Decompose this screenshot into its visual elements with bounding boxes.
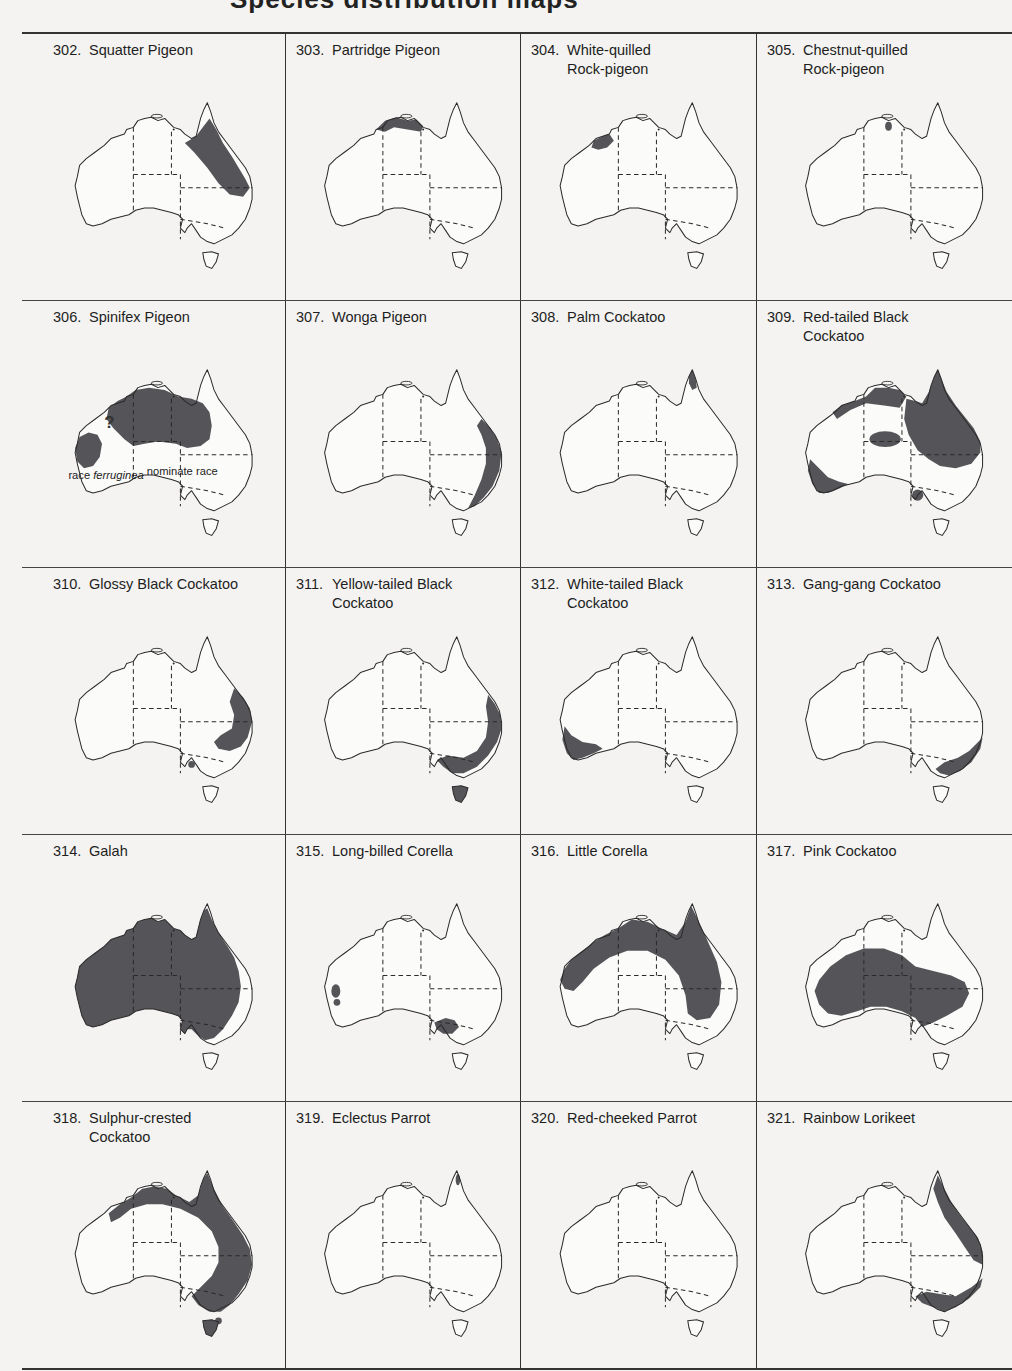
species-map-cell: 312.White-tailed Black Cockatoo — [521, 568, 757, 834]
uncertain-range-marker: ? — [104, 413, 114, 432]
species-label: 308.Palm Cockatoo — [531, 308, 665, 327]
species-label: 306.Spinifex Pigeon — [53, 308, 190, 327]
australia-map: ?race ferrugineanominate race — [22, 301, 286, 567]
species-name: Galah — [89, 842, 128, 861]
species-label: 312.White-tailed Black Cockatoo — [531, 575, 683, 613]
map-row: 318.Sulphur-crested Cockatoo319.Eclectus… — [22, 1102, 1012, 1368]
species-name: Pink Cockatoo — [803, 842, 897, 861]
range-area — [885, 122, 892, 131]
species-number: 316. — [531, 842, 567, 861]
species-label: 307.Wonga Pigeon — [296, 308, 427, 327]
race-ferruginea-label: race ferruginea — [68, 469, 143, 481]
australia-map — [286, 34, 521, 300]
species-map-cell: 309.Red-tailed Black Cockatoo — [757, 301, 1012, 567]
species-map-cell: 311.Yellow-tailed Black Cockatoo — [286, 568, 521, 834]
species-label: 310.Glossy Black Cockatoo — [53, 575, 238, 594]
species-map-cell: 303.Partridge Pigeon — [286, 34, 521, 300]
species-label: 314.Galah — [53, 842, 128, 861]
species-map-cell: 315.Long-billed Corella — [286, 835, 521, 1101]
species-name: Wonga Pigeon — [332, 308, 427, 327]
species-name: Sulphur-crested Cockatoo — [89, 1109, 191, 1147]
species-number: 321. — [767, 1109, 803, 1128]
species-map-cell: 316.Little Corella — [521, 835, 757, 1101]
map-row: 310.Glossy Black Cockatoo311.Yellow-tail… — [22, 568, 1012, 835]
species-label: 318.Sulphur-crested Cockatoo — [53, 1109, 191, 1147]
map-row: 314.Galah315.Long-billed Corella316.Litt… — [22, 835, 1012, 1102]
species-map-cell: 304.White-quilled Rock-pigeon — [521, 34, 757, 300]
species-map-cell: 308.Palm Cockatoo — [521, 301, 757, 567]
species-number: 310. — [53, 575, 89, 594]
species-map-cell: 305.Chestnut-quilled Rock-pigeon — [757, 34, 1012, 300]
species-map-cell: 320.Red-cheeked Parrot — [521, 1102, 757, 1368]
australia-map — [757, 568, 1012, 834]
species-map-cell: 318.Sulphur-crested Cockatoo — [22, 1102, 286, 1368]
species-label: 313.Gang-gang Cockatoo — [767, 575, 941, 594]
species-number: 311. — [296, 575, 332, 613]
species-number: 303. — [296, 41, 332, 60]
australia-map — [22, 835, 286, 1101]
species-label: 319.Eclectus Parrot — [296, 1109, 430, 1128]
nominate-race-label: nominate race — [147, 465, 218, 477]
range-area — [334, 999, 341, 1006]
australia-map — [757, 835, 1012, 1101]
distribution-map-grid: 302.Squatter Pigeon303.Partridge Pigeon3… — [22, 32, 1012, 1370]
species-label: 311.Yellow-tailed Black Cockatoo — [296, 575, 452, 613]
australia-map — [521, 1102, 757, 1368]
species-label: 321.Rainbow Lorikeet — [767, 1109, 915, 1128]
species-number: 304. — [531, 41, 567, 79]
species-number: 318. — [53, 1109, 89, 1147]
species-number: 315. — [296, 842, 332, 861]
species-name: Red-cheeked Parrot — [567, 1109, 697, 1128]
species-map-cell: ?race ferrugineanominate race306.Spinife… — [22, 301, 286, 567]
species-label: 303.Partridge Pigeon — [296, 41, 440, 60]
species-label: 320.Red-cheeked Parrot — [531, 1109, 697, 1128]
species-number: 306. — [53, 308, 89, 327]
species-number: 302. — [53, 41, 89, 60]
australia-map — [521, 835, 757, 1101]
species-number: 317. — [767, 842, 803, 861]
page-title-fragment: Species distribution maps — [0, 0, 979, 14]
species-label: 305.Chestnut-quilled Rock-pigeon — [767, 41, 908, 79]
species-name: Spinifex Pigeon — [89, 308, 190, 327]
species-name: White-quilled Rock-pigeon — [567, 41, 651, 79]
australia-map — [22, 568, 286, 834]
map-row: 302.Squatter Pigeon303.Partridge Pigeon3… — [22, 34, 1012, 301]
species-number: 313. — [767, 575, 803, 594]
australia-map — [521, 301, 757, 567]
species-label: 317.Pink Cockatoo — [767, 842, 897, 861]
species-number: 312. — [531, 575, 567, 613]
species-name: Squatter Pigeon — [89, 41, 193, 60]
australia-map — [22, 34, 286, 300]
species-label: 304.White-quilled Rock-pigeon — [531, 41, 651, 79]
species-label: 309.Red-tailed Black Cockatoo — [767, 308, 909, 346]
species-number: 308. — [531, 308, 567, 327]
species-name: White-tailed Black Cockatoo — [567, 575, 683, 613]
species-number: 319. — [296, 1109, 332, 1128]
species-name: Rainbow Lorikeet — [803, 1109, 915, 1128]
australia-map — [286, 835, 521, 1101]
range-area — [456, 1174, 460, 1185]
range-area — [331, 984, 340, 997]
species-number: 305. — [767, 41, 803, 79]
species-map-cell: 310.Glossy Black Cockatoo — [22, 568, 286, 834]
species-name: Little Corella — [567, 842, 648, 861]
species-number: 307. — [296, 308, 332, 327]
species-label: 316.Little Corella — [531, 842, 648, 861]
species-name: Glossy Black Cockatoo — [89, 575, 238, 594]
species-map-cell: 313.Gang-gang Cockatoo — [757, 568, 1012, 834]
species-map-cell: 302.Squatter Pigeon — [22, 34, 286, 300]
species-map-cell: 314.Galah — [22, 835, 286, 1101]
species-label: 315.Long-billed Corella — [296, 842, 453, 861]
species-map-cell: 307.Wonga Pigeon — [286, 301, 521, 567]
australia-map — [757, 1102, 1012, 1368]
species-map-cell: 319.Eclectus Parrot — [286, 1102, 521, 1368]
map-row: ?race ferrugineanominate race306.Spinife… — [22, 301, 1012, 568]
species-name: Palm Cockatoo — [567, 308, 665, 327]
species-number: 309. — [767, 308, 803, 346]
australia-map — [286, 1102, 521, 1368]
species-name: Eclectus Parrot — [332, 1109, 430, 1128]
species-number: 320. — [531, 1109, 567, 1128]
species-name: Chestnut-quilled Rock-pigeon — [803, 41, 908, 79]
species-name: Yellow-tailed Black Cockatoo — [332, 575, 452, 613]
species-number: 314. — [53, 842, 89, 861]
